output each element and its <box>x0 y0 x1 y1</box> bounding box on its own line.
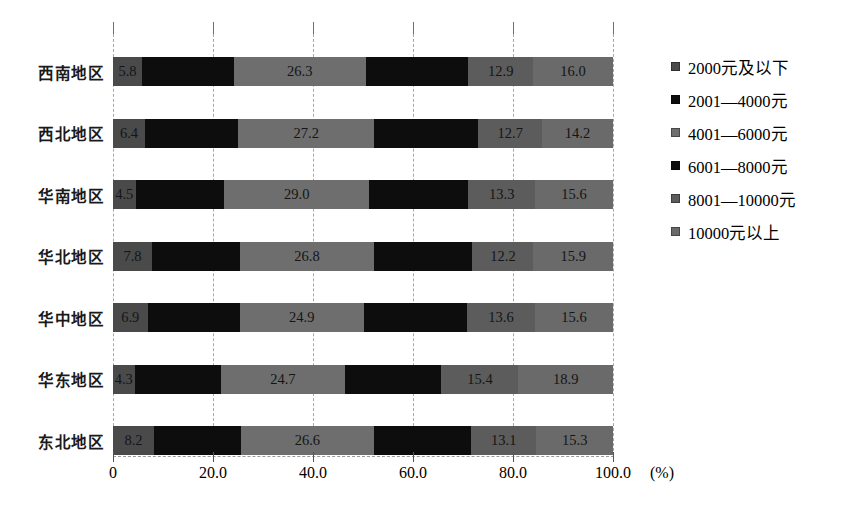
bar-segment-value-label: 29.0 <box>284 187 309 202</box>
legend-item[interactable]: 6001—8000元 <box>671 149 841 182</box>
legend-label: 10000元以上 <box>688 220 780 244</box>
stacked-bar-chart: 西南地区5.826.312.916.0西北地区6.427.212.714.2华南… <box>0 0 843 530</box>
bar-segment: 15.4 <box>441 365 518 394</box>
bar-segment <box>369 180 468 209</box>
bar-row: 华南地区4.529.013.315.6 <box>113 180 613 209</box>
legend-item[interactable]: 2000元及以下 <box>671 50 841 83</box>
category-label: 西北地区 <box>38 122 104 144</box>
bar-segment: 13.6 <box>467 303 535 332</box>
bar-segment-value-label: 24.7 <box>270 372 295 387</box>
bar-segment-value-label: 12.2 <box>490 249 515 264</box>
x-tick-label: 0 <box>109 464 117 482</box>
bar-segment-value-label: 6.9 <box>121 310 139 325</box>
bar-row: 西北地区6.427.212.714.2 <box>113 119 613 148</box>
bar-segment: 12.2 <box>472 242 533 271</box>
category-label: 西南地区 <box>38 61 104 83</box>
legend-item[interactable]: 4001—6000元 <box>671 116 841 149</box>
bar-row: 西南地区5.826.312.916.0 <box>113 57 613 86</box>
legend-label: 6001—8000元 <box>688 154 788 178</box>
bar-segment-value-label: 5.8 <box>118 64 136 79</box>
bar-segment-value-label: 13.3 <box>489 187 514 202</box>
top-tick-mark <box>113 22 114 34</box>
bar-segment-value-label: 26.3 <box>287 64 312 79</box>
bar-segment: 13.3 <box>468 180 535 209</box>
bar-segment-value-label: 16.0 <box>560 64 585 79</box>
gridline <box>613 34 614 456</box>
legend-label: 4001—6000元 <box>688 121 788 145</box>
bar-segment: 8.2 <box>113 426 154 455</box>
bar-row: 华北地区7.826.812.215.9 <box>113 242 613 271</box>
x-tick-label: 80.0 <box>499 464 527 482</box>
bar-segment: 24.9 <box>240 303 365 332</box>
category-label: 华中地区 <box>38 307 104 329</box>
x-axis <box>113 456 614 457</box>
bar-segment-value-label: 12.7 <box>498 126 523 141</box>
legend: 2000元及以下2001—4000元4001—6000元6001—8000元80… <box>671 50 841 248</box>
bar-segment-value-label: 15.6 <box>561 187 586 202</box>
category-label: 东北地区 <box>38 430 104 452</box>
bar-segment <box>366 57 469 86</box>
category-label: 华东地区 <box>38 368 104 390</box>
axis-tick <box>513 452 514 462</box>
bar-row: 东北地区8.226.613.115.3 <box>113 426 613 455</box>
legend-item[interactable]: 8001—10000元 <box>671 182 841 215</box>
legend-item[interactable]: 2001—4000元 <box>671 83 841 116</box>
bar-segment <box>374 119 478 148</box>
bar-segment-value-label: 4.3 <box>115 372 133 387</box>
axis-tick <box>113 452 114 462</box>
bar-segment: 15.6 <box>535 180 613 209</box>
bar-segment <box>145 119 238 148</box>
bar-segment-value-label: 26.6 <box>295 433 320 448</box>
x-tick-label: 20.0 <box>199 464 227 482</box>
bar-segment: 18.9 <box>518 365 613 394</box>
bar-segment-value-label: 15.9 <box>561 249 586 264</box>
bar-segment <box>142 57 234 86</box>
axis-tick <box>413 452 414 462</box>
bar-segment: 26.8 <box>240 242 374 271</box>
legend-label: 2001—4000元 <box>688 88 788 112</box>
bar-segment-value-label: 6.4 <box>120 126 138 141</box>
bar-segment: 26.3 <box>234 57 366 86</box>
stacked-bar: 6.924.913.615.6 <box>113 303 613 332</box>
bar-segment-value-label: 18.9 <box>553 372 578 387</box>
stacked-bar: 7.826.812.215.9 <box>113 242 613 271</box>
x-tick-label: 60.0 <box>399 464 427 482</box>
legend-swatch-icon <box>671 227 680 236</box>
legend-swatch-icon <box>671 161 680 170</box>
top-tick-mark <box>613 22 614 34</box>
bar-segment: 15.9 <box>533 242 613 271</box>
bar-segment-value-label: 4.5 <box>115 187 133 202</box>
legend-swatch-icon <box>671 95 680 104</box>
bar-segment <box>374 426 471 455</box>
bar-segment-value-label: 14.2 <box>565 126 590 141</box>
legend-swatch-icon <box>671 62 680 71</box>
bar-segment: 12.7 <box>478 119 542 148</box>
bar-segment: 13.1 <box>471 426 537 455</box>
top-tick-mark <box>213 22 214 34</box>
bar-segment: 15.3 <box>536 426 613 455</box>
bar-segment: 4.5 <box>113 180 136 209</box>
top-tick-mark <box>413 22 414 34</box>
stacked-bar: 6.427.212.714.2 <box>113 119 613 148</box>
bar-segment <box>374 242 472 271</box>
category-label: 华北地区 <box>38 245 104 267</box>
bar-segment: 24.7 <box>221 365 345 394</box>
axis-tick <box>613 452 614 462</box>
plot-area: 西南地区5.826.312.916.0西北地区6.427.212.714.2华南… <box>113 34 613 456</box>
legend-label: 2000元及以下 <box>688 55 789 79</box>
bar-segment-value-label: 24.9 <box>289 310 314 325</box>
bar-segment <box>135 365 222 394</box>
bar-segment: 29.0 <box>224 180 369 209</box>
bar-segment <box>345 365 442 394</box>
bar-segment <box>364 303 467 332</box>
legend-item[interactable]: 10000元以上 <box>671 215 841 248</box>
bar-segment-value-label: 27.2 <box>294 126 319 141</box>
bar-segment-value-label: 8.2 <box>124 433 142 448</box>
axis-tick <box>213 452 214 462</box>
x-tick-label: 100.0 <box>595 464 631 482</box>
bar-segment-value-label: 7.8 <box>123 249 141 264</box>
bar-segment: 6.4 <box>113 119 145 148</box>
bar-segment <box>148 303 240 332</box>
bar-segment-value-label: 15.6 <box>561 310 586 325</box>
stacked-bar: 4.529.013.315.6 <box>113 180 613 209</box>
